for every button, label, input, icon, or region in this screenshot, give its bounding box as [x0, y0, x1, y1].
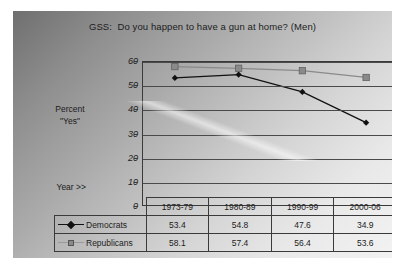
- square-marker-icon: [363, 74, 369, 80]
- chart-title: GSS: Do you happen to have a gun at home…: [13, 21, 392, 32]
- table-row: Republicans58.157.456.453.6: [55, 234, 393, 252]
- y-tick-mark: [134, 134, 138, 135]
- presentation-slide: GSS: Do you happen to have a gun at home…: [13, 11, 392, 258]
- year-axis-label: Year >>: [57, 182, 86, 192]
- series-line-democrats: [175, 75, 366, 123]
- table-header-cell: 1990-99: [271, 198, 334, 216]
- diamond-marker-icon: [58, 220, 84, 229]
- square-marker-icon: [299, 68, 305, 74]
- table-value-cell: 53.4: [146, 216, 209, 234]
- gridline: [143, 183, 392, 184]
- y-tick-mark: [134, 61, 138, 62]
- legend-cell-republicans[interactable]: Republicans: [55, 234, 147, 252]
- table-header-cell: 2000-06: [334, 198, 392, 216]
- gridline: [143, 159, 392, 160]
- table-value-cell: 53.6: [334, 234, 392, 252]
- gridline: [143, 86, 392, 87]
- header-spacer-cell: Year >>: [55, 198, 147, 216]
- y-axis-title-line1: Percent: [55, 104, 84, 114]
- y-axis-title-line2: "Yes": [35, 115, 105, 127]
- diamond-marker-icon: [172, 75, 178, 81]
- y-tick-mark: [134, 158, 138, 159]
- data-table: Year >> 1973-791980-891990-992000-06 Dem…: [54, 197, 392, 252]
- table-header-cell: 1973-79: [146, 198, 209, 216]
- y-tick-mark: [134, 109, 138, 110]
- table-value-cell: 34.9: [334, 216, 392, 234]
- y-tick-mark: [134, 85, 138, 86]
- diamond-marker-icon: [363, 120, 369, 126]
- table-value-cell: 57.4: [209, 234, 272, 252]
- gridline: [143, 135, 392, 136]
- gridline: [143, 110, 392, 111]
- table-value-cell: 56.4: [271, 234, 334, 252]
- diamond-marker-icon: [299, 89, 305, 95]
- table-header-cell: 1980-89: [209, 198, 272, 216]
- square-marker-icon: [235, 65, 241, 71]
- y-tick-mark: [134, 182, 138, 183]
- table-header-row: Year >> 1973-791980-891990-992000-06: [55, 198, 393, 216]
- y-axis-tick-labels: 0102030405060: [108, 61, 138, 206]
- table-row: Democrats53.454.847.634.9: [55, 216, 393, 234]
- square-marker-icon: [172, 63, 178, 69]
- gridline: [143, 62, 392, 63]
- diamond-marker-icon: [236, 71, 242, 77]
- table-value-cell: 54.8: [209, 216, 272, 234]
- y-axis-title: Percent "Yes": [35, 103, 105, 127]
- legend-cell-democrats[interactable]: Democrats: [55, 216, 147, 234]
- series-label: Republicans: [86, 238, 133, 248]
- table-value-cell: 47.6: [271, 216, 334, 234]
- plot-area: [142, 61, 392, 206]
- square-marker-icon: [58, 238, 84, 247]
- table-value-cell: 58.1: [146, 234, 209, 252]
- series-label: Democrats: [86, 220, 127, 230]
